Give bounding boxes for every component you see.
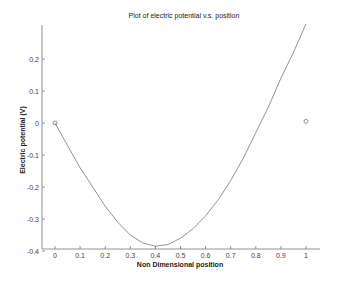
x-tick-label: 1 — [304, 252, 308, 259]
x-tick-label: 0.8 — [251, 252, 261, 259]
boundary-markers — [53, 119, 308, 125]
x-tick-label: 0.5 — [176, 252, 186, 259]
x-tick-label: 0.9 — [276, 252, 286, 259]
y-tick-label: -0.4 — [27, 248, 39, 255]
chart: Plot of electric potential v.s. position… — [0, 0, 337, 283]
circle-marker — [304, 119, 308, 123]
y-tick-label: 0.1 — [29, 88, 39, 95]
x-tick-label: 0.4 — [151, 252, 161, 259]
x-axis: 00.10.20.30.40.50.60.70.80.91 — [42, 246, 320, 259]
chart-title: Plot of electric potential v.s. position — [129, 12, 240, 20]
y-tick-label: 0 — [35, 120, 39, 127]
y-tick-label: -0.1 — [27, 152, 39, 159]
y-axis: 0.20.10-0.1-0.2-0.3-0.4 — [27, 25, 45, 255]
x-axis-label: Non Dimensional position — [137, 261, 223, 269]
x-tick-label: 0.3 — [125, 252, 135, 259]
y-tick-label: 0.2 — [29, 56, 39, 63]
x-tick-label: 0 — [53, 252, 57, 259]
y-tick-label: -0.2 — [27, 184, 39, 191]
potential-curve — [55, 24, 306, 246]
x-tick-label: 0.6 — [201, 252, 211, 259]
y-axis-label: Electric potential (V) — [19, 106, 27, 174]
x-tick-label: 0.7 — [226, 252, 236, 259]
x-tick-label: 0.1 — [75, 252, 85, 259]
x-tick-label: 0.2 — [100, 252, 110, 259]
y-tick-label: -0.3 — [27, 216, 39, 223]
